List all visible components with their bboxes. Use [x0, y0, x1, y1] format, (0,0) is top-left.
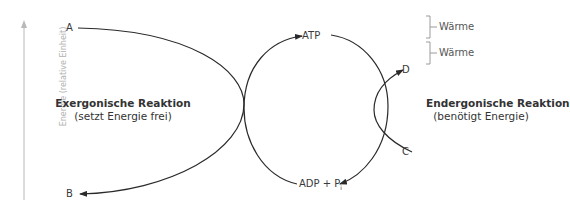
node-d: D	[402, 64, 410, 76]
node-a: A	[66, 22, 73, 34]
exergonic-subtitle: (setzt Energie frei)	[48, 110, 198, 123]
exergonic-title: Exergonische Reaktion	[48, 97, 198, 110]
endergonic-title: Endergonische Reaktion	[426, 97, 536, 110]
atp-synthesis-arc	[244, 36, 302, 184]
heat-bracket-1	[426, 16, 437, 38]
adp-label: ADP + P	[299, 178, 340, 189]
heat-bracket-2	[426, 42, 437, 64]
node-c: C	[402, 146, 409, 158]
heat-label-2: Wärme	[439, 47, 474, 58]
endergonic-arrow	[374, 70, 412, 152]
energy-axis-arrowhead	[21, 20, 27, 28]
endergonic-subtitle: (benötigt Energie)	[426, 110, 536, 123]
endergonic-reaction-label: Endergonische Reaktion (benötigt Energie…	[426, 97, 536, 123]
node-atp: ATP	[302, 30, 320, 42]
heat-label-1: Wärme	[439, 21, 474, 32]
atp-hydrolysis-arc	[331, 35, 388, 184]
node-b: B	[66, 188, 73, 200]
pi-subscript: i	[340, 184, 342, 191]
node-adp-pi: ADP + Pi	[299, 178, 342, 194]
exergonic-reaction-label: Exergonische Reaktion (setzt Energie fre…	[48, 97, 198, 123]
